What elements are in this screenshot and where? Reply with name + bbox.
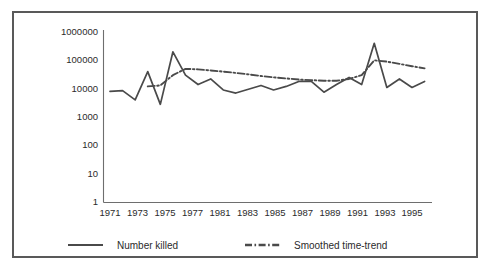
y-tick-label: 1000 (77, 111, 98, 122)
x-tick-label: 1989 (319, 207, 340, 218)
x-tick-label: 1987 (292, 207, 313, 218)
chart-legend: Number killed Smoothed time-trend (68, 240, 387, 251)
x-tick-label: 1995 (401, 207, 422, 218)
y-tick-label: 100000 (66, 54, 98, 65)
y-tick-label: 100 (82, 139, 98, 150)
chart-figure: 1000000 100000 10000 1000 100 10 1 1971 … (0, 0, 494, 270)
x-axis: 1971 1973 1975 1977 1981 1983 1985 1987 … (99, 203, 432, 219)
x-tick-label: 1981 (209, 207, 230, 218)
y-tick-label: 10000 (72, 83, 98, 94)
x-tick-label: 1975 (154, 207, 175, 218)
x-tick-label: 1973 (127, 207, 148, 218)
y-tick-label: 1000000 (61, 26, 98, 37)
x-tick-label: 1983 (237, 207, 258, 218)
series-line-number-killed (110, 43, 425, 104)
x-tick-label: 1971 (99, 207, 120, 218)
x-tick-label: 1993 (374, 207, 395, 218)
y-tick-label: 10 (87, 168, 98, 179)
x-tick-label: 1977 (182, 207, 203, 218)
chart-plot-area: 1000000 100000 10000 1000 100 10 1 1971 … (0, 0, 494, 270)
legend-label-smoothed-time-trend: Smoothed time-trend (294, 240, 387, 251)
x-tick-label: 1985 (264, 207, 285, 218)
y-tick-label: 1 (93, 196, 98, 207)
y-axis: 1000000 100000 10000 1000 100 10 1 (61, 26, 103, 207)
x-tick-label: 1991 (347, 207, 368, 218)
legend-label-number-killed: Number killed (117, 240, 178, 251)
